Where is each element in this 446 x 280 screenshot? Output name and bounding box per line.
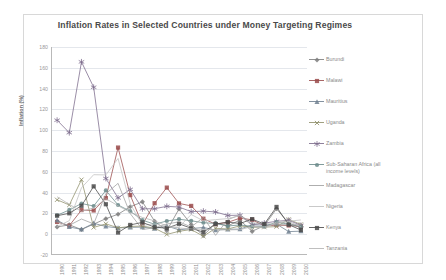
x-axis-tick: 1998 [157,264,163,275]
x-axis-tick: 2008 [279,264,285,275]
y-axis-tick: 180 [39,44,48,50]
legend-label: Nigeria [326,202,343,210]
y-axis-tick: 80 [42,148,48,154]
legend-label: Tanzania [326,244,347,252]
legend-label: Malawi [326,76,342,84]
x-axis-tick: 1992 [83,264,89,275]
x-axis-tick: 2000 [181,264,187,275]
x-axis-tick: 2005 [242,264,248,275]
x-axis-tick: 1993 [96,264,102,275]
legend-label: Burundi [326,55,344,63]
x-axis-tick: 2003 [218,264,224,275]
legend-swatch-icon [309,76,324,85]
chart-title: Inflation Rates in Selected Countries un… [40,20,370,31]
legend-item[interactable]: Sub-Saharan Africa (all income levels) [309,160,409,181]
y-axis-tick: 100 [39,127,48,133]
legend-swatch-icon [309,181,324,190]
legend-swatch-icon [309,55,324,64]
y-axis-tick: 20 [42,210,48,216]
legend-label: Uganda [326,118,345,126]
legend-swatch-icon [309,118,324,127]
x-axis-tick: 1997 [144,264,150,275]
y-axis-tick: 160 [39,65,48,71]
y-axis-tick: 0 [45,231,48,237]
x-axis-tick: 1991 [71,264,77,275]
legend-item[interactable]: Burundi [309,55,409,76]
legend-swatch-icon [309,139,324,148]
x-axis-tick: 1995 [120,264,126,275]
x-axis-tick: 2006 [254,264,260,275]
x-axis-tick: 2010 [303,264,309,275]
legend-swatch-icon [309,223,324,232]
y-axis-tick: -20 [41,252,49,258]
x-axis-tick: 2007 [266,264,272,275]
plot-area [51,47,307,255]
legend-item[interactable]: Uganda [309,118,409,139]
y-axis-tick: 120 [39,106,48,112]
x-axis-tick: 2002 [205,264,211,275]
y-axis-tick: 40 [42,190,48,196]
x-axis-tick: 1990 [59,264,65,275]
legend-label: Kenya [326,223,341,231]
legend-label: Zambia [326,139,344,147]
legend-item[interactable]: Zambia [309,139,409,160]
legend-label: Mauritius [326,97,348,105]
x-axis-tick: 2009 [291,264,297,275]
legend-item[interactable]: Kenya [309,223,409,244]
x-axis-tick: 1996 [132,264,138,275]
legend-item[interactable]: Madagascar [309,181,409,202]
legend-label: Madagascar [326,181,355,189]
chart-legend: BurundiMalawiMauritiusUgandaZambiaSub-Sa… [309,55,409,265]
chart-screenshot: Inflation Rates in Selected Countries un… [0,0,446,280]
y-axis: 180160140120100806040200-20 [24,40,50,262]
legend-swatch-icon [309,97,324,106]
legend-item[interactable]: Malawi [309,76,409,97]
x-axis-tick: 1999 [169,264,175,275]
legend-swatch-icon [309,244,324,253]
x-axis: 1990199119921993199419951996199719981999… [51,256,307,280]
x-axis-tick: 2004 [230,264,236,275]
x-axis-tick: 2001 [193,264,199,275]
legend-item[interactable]: Tanzania [309,244,409,265]
legend-swatch-icon [309,202,324,211]
series-layer [51,47,307,255]
x-axis-tick: 1994 [108,264,114,275]
y-axis-tick: 60 [42,169,48,175]
legend-item[interactable]: Mauritius [309,97,409,118]
legend-swatch-icon [309,160,324,169]
legend-label: Sub-Saharan Africa (all income levels) [326,160,380,174]
legend-item[interactable]: Nigeria [309,202,409,223]
y-axis-tick: 140 [39,86,48,92]
